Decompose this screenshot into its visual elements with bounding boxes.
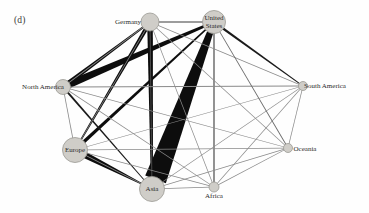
node-label-oceania: Oceania: [294, 145, 318, 153]
node-label-united_states: United: [204, 14, 224, 22]
node-label-united_states-line2: States: [206, 22, 223, 30]
node-south_america[interactable]: South America: [299, 82, 347, 91]
node-africa[interactable]: Africa: [205, 182, 224, 200]
edge-asia-to-europe: [84, 154, 143, 184]
node-europe[interactable]: Europe: [63, 138, 88, 163]
edge-europe-to-germany: [80, 28, 147, 141]
node-label-north_america: North America: [22, 83, 65, 91]
node-label-africa: Africa: [205, 192, 224, 200]
node-label-asia: Asia: [146, 185, 160, 193]
node-united_states[interactable]: UnitedStates: [203, 11, 226, 34]
node-north_america[interactable]: North America: [22, 80, 70, 95]
edge-united_states-to-africa: [213, 31, 214, 182]
node-label-germany: Germany: [115, 18, 142, 26]
edge-europe-to-oceania: [85, 148, 284, 151]
node-label-south_america: South America: [304, 82, 347, 90]
edge-oceania-to-south_america: [289, 90, 303, 145]
edge-asia-to-oceania: [162, 149, 285, 187]
edge-germany-to-united_states: [157, 21, 204, 22]
network-figure: (d) GermanyUnitedStatesNorth AmericaSout…: [0, 0, 369, 213]
node-oceania[interactable]: Oceania: [284, 144, 318, 153]
edge-north_america-to-united_states: [67, 25, 206, 88]
node-asia[interactable]: Asia: [140, 177, 165, 202]
edge-united_states-to-south_america: [221, 27, 300, 85]
edge-layer: [64, 21, 303, 189]
node-label-europe: Europe: [65, 146, 85, 154]
network-graph-svg: GermanyUnitedStatesNorth AmericaSouth Am…: [0, 0, 369, 213]
edge-united_states-to-oceania: [218, 30, 286, 145]
edge-africa-to-oceania: [217, 149, 284, 185]
node-circle-africa[interactable]: [209, 182, 219, 192]
edge-asia-to-africa: [162, 187, 210, 189]
node-germany[interactable]: Germany: [115, 13, 159, 31]
node-circle-oceania[interactable]: [284, 144, 293, 153]
edge-north_america-to-europe: [64, 93, 74, 140]
node-circle-germany[interactable]: [141, 13, 159, 31]
